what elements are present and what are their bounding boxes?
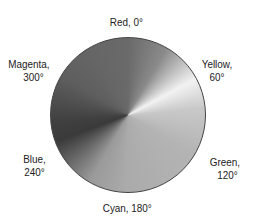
label-magenta-degrees: 300°	[8, 71, 49, 84]
label-yellow-name: Yellow,	[202, 58, 232, 71]
label-yellow: Yellow, 60°	[202, 58, 232, 84]
label-green: Green, 120°	[210, 156, 240, 182]
label-magenta-name: Magenta,	[8, 58, 49, 71]
label-blue-degrees: 240°	[23, 166, 46, 179]
label-green-name: Green,	[210, 156, 240, 169]
label-blue-name: Blue,	[23, 153, 46, 166]
label-magenta: Magenta, 300°	[8, 58, 49, 84]
label-blue: Blue, 240°	[23, 153, 46, 179]
label-red: Red, 0°	[110, 16, 143, 29]
label-yellow-degrees: 60°	[202, 71, 232, 84]
hue-wheel	[50, 37, 206, 193]
label-green-degrees: 120°	[210, 169, 240, 182]
label-cyan: Cyan, 180°	[103, 202, 152, 215]
